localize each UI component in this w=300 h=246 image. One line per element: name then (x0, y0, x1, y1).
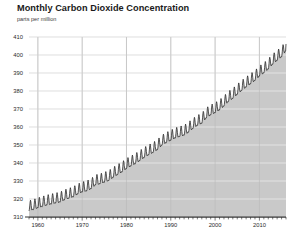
y-tick-label: 350 (1, 142, 23, 148)
y-tick-label: 310 (1, 214, 23, 220)
y-tick-label: 390 (1, 70, 23, 76)
y-tick-label: 380 (1, 88, 23, 94)
x-tick-label: 2000 (200, 222, 230, 229)
area-fill (29, 44, 286, 217)
y-tick-label: 400 (1, 52, 23, 58)
plot-area: 310320330340350360370380390400410 196019… (0, 0, 300, 246)
co2-chart: Monthly Carbon Dioxide Concentration par… (0, 0, 300, 246)
y-tick-label: 360 (1, 124, 23, 130)
x-tick-label: 1990 (156, 222, 186, 229)
y-tick-label: 330 (1, 178, 23, 184)
x-tick-label: 1960 (23, 222, 53, 229)
x-tick-label: 2010 (244, 222, 274, 229)
y-tick-label: 340 (1, 160, 23, 166)
y-tick-label: 320 (1, 196, 23, 202)
y-tick-label: 410 (1, 34, 23, 40)
plot-canvas (0, 0, 300, 246)
x-tick-label: 1970 (67, 222, 97, 229)
x-tick-label: 1980 (111, 222, 141, 229)
y-tick-label: 370 (1, 106, 23, 112)
